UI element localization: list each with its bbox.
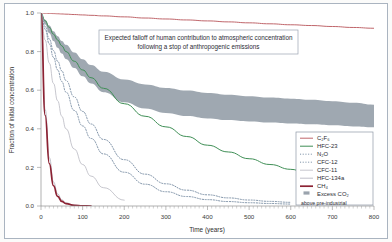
chart-legend[interactable]: C₂F₆HFC-23N₂OCFC-12CFC-11HFC-134aCH₄Exce…: [296, 132, 373, 206]
legend-label-0[interactable]: C₂F₆: [317, 135, 330, 141]
x-tick-label: 300: [161, 213, 172, 220]
legend-label-2[interactable]: N₂O: [317, 151, 329, 157]
chart-plot-area: 0100200300400500600700800 0.00.20.40.60.…: [0, 0, 392, 242]
x-axis-ticks: 0100200300400500600700800: [39, 206, 379, 220]
legend-swatch-excess-co2: [304, 191, 310, 194]
y-tick-label: 0.0: [25, 202, 34, 209]
x-tick-label: 100: [77, 213, 88, 220]
legend-label-3[interactable]: CFC-12: [317, 159, 338, 165]
y-tick-label: 0.4: [25, 125, 34, 132]
legend-label-6[interactable]: CH₄: [317, 183, 329, 189]
y-axis-title: Fraction of initial concentration: [8, 66, 15, 153]
x-tick-label: 600: [286, 213, 297, 220]
y-axis-ticks: 0.00.20.40.60.81.0: [25, 9, 41, 209]
x-tick-label: 500: [244, 213, 255, 220]
x-tick-label: 400: [202, 213, 213, 220]
legend-label-5[interactable]: HFC-134a: [317, 175, 345, 181]
legend-label-excess-co2[interactable]: Excess CO₂: [317, 191, 349, 197]
y-tick-label: 1.0: [25, 9, 34, 16]
x-axis-title: Time (years): [189, 226, 225, 234]
x-tick-label: 700: [327, 213, 338, 220]
x-tick-label: 0: [39, 213, 43, 220]
title-line-1: Expected falloff of human contribution t…: [105, 34, 293, 42]
legend-sublabel-pre-industrial: above pre-industrial: [301, 200, 347, 206]
y-tick-label: 0.2: [25, 164, 34, 171]
x-tick-label: 800: [369, 213, 380, 220]
y-tick-label: 0.8: [25, 48, 34, 55]
chart-figure: 0100200300400500600700800 0.00.20.40.60.…: [0, 0, 392, 242]
y-tick-label: 0.6: [25, 86, 34, 93]
chart-title-box: Expected falloff of human contribution t…: [99, 30, 298, 54]
legend-label-4[interactable]: CFC-11: [317, 167, 337, 173]
legend-label-1[interactable]: HFC-23: [317, 143, 338, 149]
title-line-2: following a stop of anthropogenic emissi…: [138, 43, 260, 51]
x-tick-label: 200: [119, 213, 130, 220]
